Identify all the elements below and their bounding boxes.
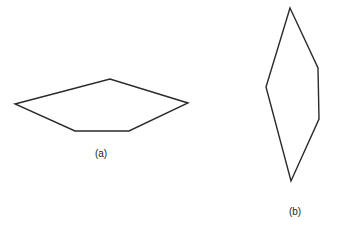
- hexagon-a-shape: [15, 79, 188, 131]
- label-b: (b): [289, 206, 301, 217]
- hexagon-b-shape: [266, 8, 319, 181]
- diagram-canvas: [0, 0, 338, 228]
- label-a: (a): [95, 148, 107, 159]
